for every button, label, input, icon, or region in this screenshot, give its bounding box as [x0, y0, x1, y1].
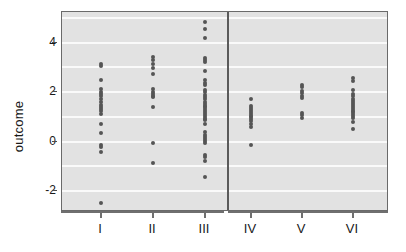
x-tick-mark [100, 211, 102, 218]
data-point [99, 131, 103, 135]
data-point [151, 62, 155, 66]
x-tick-mark [301, 211, 303, 218]
x-tick-mark [152, 211, 154, 218]
data-point [203, 69, 207, 73]
data-point [203, 122, 207, 126]
data-point [203, 83, 207, 87]
data-point [99, 122, 103, 126]
data-point [151, 72, 155, 76]
x-axis: IIIIIIIVVVI [61, 211, 388, 252]
x-tick-label-iv: IV [244, 221, 256, 236]
data-point [300, 116, 304, 120]
data-point [203, 141, 207, 145]
data-point [151, 141, 155, 145]
data-point [151, 95, 155, 99]
data-point [351, 88, 355, 92]
x-tick-label-vi: VI [346, 221, 358, 236]
x-tick-label-ii: II [148, 221, 155, 236]
gridline [62, 165, 387, 167]
x-tick-label-i: I [98, 221, 102, 236]
data-point [203, 36, 207, 40]
gridline [62, 17, 387, 19]
data-point [151, 105, 155, 109]
plot-panel [61, 11, 388, 211]
data-point [99, 145, 103, 149]
data-point [351, 120, 355, 124]
y-axis-ticks: 420-2 [34, 0, 56, 252]
panel-divider [227, 12, 229, 210]
y-tick-mark [52, 91, 57, 92]
x-axis-rule [61, 211, 224, 213]
data-point [151, 66, 155, 70]
data-point [151, 161, 155, 165]
data-point [249, 97, 253, 101]
gridline [62, 91, 387, 93]
x-tick-label-v: V [297, 221, 306, 236]
x-tick-label-iii: III [199, 221, 210, 236]
y-axis-title: outcome [4, 0, 34, 252]
data-point [351, 79, 355, 83]
data-point [300, 96, 304, 100]
x-axis-rule [228, 211, 388, 213]
data-point [99, 64, 103, 68]
data-point [351, 127, 355, 131]
data-point [203, 159, 207, 163]
data-point [249, 143, 253, 147]
data-point [249, 125, 253, 129]
y-tick-mark [52, 42, 57, 43]
data-point [99, 150, 103, 154]
gridline [62, 190, 387, 192]
y-axis-title-label: outcome [12, 100, 27, 151]
data-point [203, 60, 207, 64]
y-tick-mark [52, 190, 57, 191]
data-point [99, 201, 103, 205]
x-tick-mark [250, 211, 252, 218]
x-tick-mark [352, 211, 354, 218]
x-tick-mark [204, 211, 206, 218]
data-point [203, 175, 207, 179]
gridline [62, 66, 387, 68]
gridline [62, 42, 387, 44]
data-point [203, 155, 207, 159]
y-tick-mark [52, 141, 57, 142]
data-point [99, 78, 103, 82]
data-point [203, 27, 207, 31]
data-point [99, 112, 103, 116]
gridline [62, 116, 387, 118]
strip-plot-figure: outcome 420-2 IIIIIIIVVVI [0, 0, 406, 252]
gridline [62, 141, 387, 143]
data-point [203, 20, 207, 24]
